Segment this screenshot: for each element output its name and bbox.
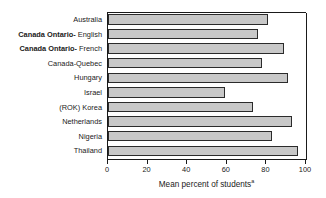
category-label: Hungary [74, 71, 102, 86]
axis-tick-label: 20 [135, 165, 159, 174]
category-label: (ROK) Korea [59, 101, 102, 116]
category-label-text: Canada-Quebec [48, 59, 102, 68]
axis-tick-label: 100 [293, 165, 317, 174]
footnote-marker: a [251, 178, 254, 184]
bar [108, 58, 262, 68]
axis-tick [107, 160, 108, 164]
axis-tick-label: 80 [253, 165, 277, 174]
bar [108, 73, 288, 83]
category-label: Thailand [74, 144, 102, 159]
axis-tick [305, 160, 306, 164]
category-axis-labels: AustraliaCanada Ontario- EnglishCanada O… [0, 13, 104, 159]
category-label-prefix: Canada Ontario- [19, 44, 79, 53]
bar [108, 87, 225, 97]
category-label-text: English [78, 30, 102, 39]
category-label-prefix: Canada Ontario- [18, 30, 78, 39]
category-label: Netherlands [62, 115, 102, 130]
bar [108, 14, 268, 24]
bar [108, 146, 298, 156]
category-label: Nigeria [79, 130, 102, 145]
plot-area [107, 13, 307, 160]
category-label: Australia [73, 13, 102, 28]
category-label-text: Hungary [74, 73, 102, 82]
value-axis-title-text: Mean percent of students [159, 180, 251, 189]
bar-chart: AustraliaCanada Ontario- EnglishCanada O… [0, 0, 326, 198]
category-label-text: Thailand [74, 146, 102, 155]
category-label-text: Nigeria [79, 132, 102, 141]
category-label-text: Australia [73, 15, 102, 24]
category-label-text: French [79, 44, 102, 53]
category-label: Canada Ontario- French [19, 42, 102, 57]
bar [108, 102, 253, 112]
category-label: Israel [84, 86, 102, 101]
axis-tick-label: 60 [214, 165, 238, 174]
axis-tick [147, 160, 148, 164]
axis-tick [226, 160, 227, 164]
category-label-text: (ROK) Korea [59, 103, 102, 112]
category-label-text: Netherlands [62, 117, 102, 126]
axis-tick [265, 160, 266, 164]
category-label: Canada Ontario- English [18, 28, 102, 43]
axis-tick [186, 160, 187, 164]
category-label: Canada-Quebec [48, 57, 102, 72]
axis-tick-label: 0 [95, 165, 119, 174]
bar [108, 29, 258, 39]
bar [108, 43, 284, 53]
axis-tick-label: 40 [174, 165, 198, 174]
value-axis-title: Mean percent of studentsa [107, 178, 306, 189]
bar [108, 131, 272, 141]
bar [108, 116, 292, 126]
category-label-text: Israel [84, 88, 102, 97]
